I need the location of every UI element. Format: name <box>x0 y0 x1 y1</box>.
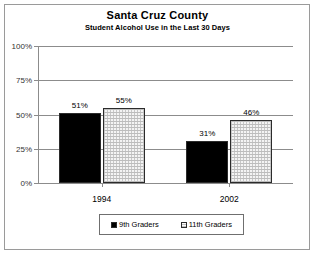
x-axis-category-label: 1994 <box>92 194 111 204</box>
chart-container: Santa Cruz County Student Alcohol Use in… <box>0 0 315 255</box>
legend-label-9th-graders: 9th Graders <box>119 220 159 229</box>
legend-item-9th-graders: 9th Graders <box>111 220 159 229</box>
title-block: Santa Cruz County Student Alcohol Use in… <box>0 9 315 33</box>
gridline <box>38 80 293 81</box>
legend-swatch-icon-11th-graders <box>181 222 187 228</box>
bar-value-label: 51% <box>72 101 88 110</box>
y-axis-label: 75% <box>0 76 32 85</box>
chart-legend: 9th Graders 11th Graders <box>99 214 244 235</box>
bar <box>59 113 101 183</box>
legend-label-11th-graders: 11th Graders <box>189 220 232 229</box>
bar-value-label: 46% <box>243 108 259 117</box>
legend-item-11th-graders: 11th Graders <box>181 220 232 229</box>
y-axis-tick <box>34 80 38 81</box>
gridline <box>38 46 293 47</box>
bar-value-label: 31% <box>199 129 215 138</box>
y-axis-label: 50% <box>0 110 32 119</box>
bar <box>186 141 228 183</box>
y-axis-label: 0% <box>0 179 32 188</box>
y-axis-tick <box>34 183 38 184</box>
chart-subtitle: Student Alcohol Use in the Last 30 Days <box>0 22 315 33</box>
bar <box>230 120 272 183</box>
y-axis-tick <box>34 46 38 47</box>
x-axis-tick <box>102 184 103 187</box>
y-axis-tick <box>34 115 38 116</box>
x-axis-category-label: 2002 <box>220 194 239 204</box>
y-axis-label: 100% <box>0 42 32 51</box>
y-axis-label: 25% <box>0 144 32 153</box>
x-axis-tick <box>229 184 230 187</box>
bar <box>103 108 145 183</box>
y-axis-tick <box>34 149 38 150</box>
bar-value-label: 55% <box>116 96 132 105</box>
x-axis-line <box>38 183 293 184</box>
chart-title: Santa Cruz County <box>0 9 315 22</box>
plot-area: 0%25%50%75%100%51%55%199431%46%2002 <box>38 46 293 184</box>
legend-swatch-icon-9th-graders <box>111 222 117 228</box>
